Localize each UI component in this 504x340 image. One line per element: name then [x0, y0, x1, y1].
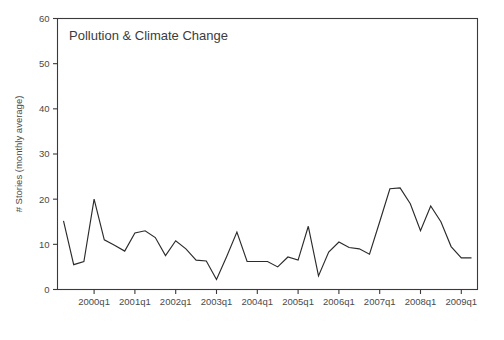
x-tick-label: 2007q1 [364, 296, 396, 307]
x-tick-label: 2003q1 [201, 296, 233, 307]
y-axis: 0102030405060 [39, 13, 58, 295]
y-tick-label: 50 [39, 58, 50, 69]
x-tick-label: 2004q1 [241, 296, 273, 307]
chart-title: Pollution & Climate Change [69, 28, 228, 43]
x-tick-label: 2009q1 [445, 296, 477, 307]
y-tick-label: 10 [39, 239, 50, 250]
x-tick-label: 2006q1 [323, 296, 355, 307]
y-tick-label: 30 [39, 148, 50, 159]
x-tick-label: 2001q1 [119, 296, 151, 307]
y-tick-label: 40 [39, 103, 50, 114]
x-tick-label: 2002q1 [160, 296, 192, 307]
y-tick-label: 60 [39, 13, 50, 24]
chart-figure: 0102030405060 2000q12001q12002q12003q120… [0, 0, 504, 340]
x-axis: 2000q12001q12002q12003q12004q12005q12006… [78, 290, 477, 308]
x-tick-label: 2005q1 [282, 296, 314, 307]
y-tick-label: 20 [39, 194, 50, 205]
y-tick-label: 0 [44, 284, 49, 295]
x-tick-label: 2000q1 [78, 296, 110, 307]
y-axis-title: # Stories (monthly average) [13, 96, 24, 213]
line-chart: 0102030405060 2000q12001q12002q12003q120… [0, 0, 504, 340]
x-tick-label: 2008q1 [405, 296, 437, 307]
